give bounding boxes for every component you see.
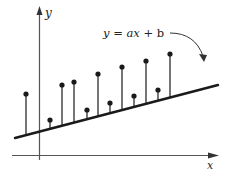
data-point bbox=[119, 64, 124, 69]
regression-line bbox=[15, 85, 218, 138]
data-point bbox=[155, 87, 160, 92]
data-point bbox=[131, 93, 136, 98]
data-point bbox=[71, 79, 76, 84]
eq-plus: + bbox=[140, 26, 157, 40]
data-point bbox=[107, 100, 112, 105]
data-point bbox=[59, 82, 64, 87]
y-axis-arrow-icon bbox=[37, 6, 43, 15]
x-axis-label: x bbox=[207, 159, 214, 172]
data-point bbox=[167, 51, 172, 56]
data-point bbox=[23, 91, 28, 96]
equation-label: y = ax + b bbox=[102, 26, 164, 40]
eq-ax: ax bbox=[126, 26, 140, 40]
data-point bbox=[143, 58, 148, 63]
data-point bbox=[84, 107, 89, 112]
data-point bbox=[47, 117, 52, 122]
regression-diagram: y x y = ax + b bbox=[0, 0, 230, 174]
eq-equals: = bbox=[110, 26, 127, 40]
eq-b: b bbox=[157, 26, 164, 40]
y-axis-label: y bbox=[44, 6, 52, 20]
pointer-arrow bbox=[170, 33, 203, 56]
x-axis-arrow-icon bbox=[208, 153, 219, 159]
pointer-arrowhead-icon bbox=[199, 54, 207, 62]
data-point bbox=[95, 71, 100, 76]
data-points bbox=[23, 51, 172, 135]
